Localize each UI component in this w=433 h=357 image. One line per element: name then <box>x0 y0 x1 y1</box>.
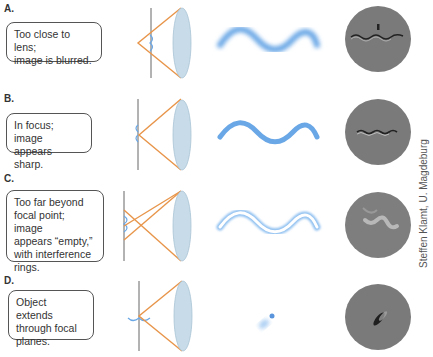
panel-b-micrograph <box>343 97 413 167</box>
panel-d-lens-diagram <box>125 278 205 357</box>
panel-b-caption: In focus; image appears sharp. <box>6 113 92 153</box>
panel-a-lens-diagram <box>130 5 210 85</box>
panel-b-image-wave <box>215 115 315 155</box>
panel-d-micrograph <box>343 282 413 352</box>
panel-c-image-wave <box>215 205 315 245</box>
panel-c-caption: Too far beyond focal point; image appear… <box>6 190 104 262</box>
panel-d-image-spot <box>250 300 290 340</box>
panel-a-label: A. <box>4 3 14 14</box>
panel-d-caption: Object extends through focal planes. <box>8 290 94 340</box>
photo-credit: Steffen Klamt, U. Magdeburg <box>418 139 429 268</box>
panel-d-label: D. <box>4 275 14 286</box>
panel-b-label: B. <box>4 93 14 104</box>
panel-c-label: C. <box>4 173 14 184</box>
panel-c-lens-diagram <box>120 188 200 268</box>
panel-a-caption: Too close to lens; image is blurred. <box>6 22 102 62</box>
panel-c-micrograph <box>343 190 413 260</box>
panel-a-image-wave <box>215 25 315 65</box>
panel-b-lens-diagram <box>130 95 210 175</box>
panel-a-micrograph <box>343 4 413 74</box>
